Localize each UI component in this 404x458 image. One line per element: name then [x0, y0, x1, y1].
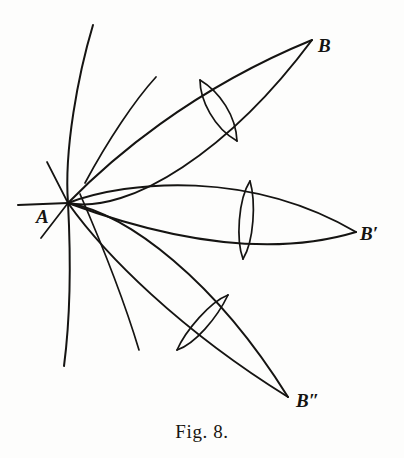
lower-lens-outer-right-edge	[68, 203, 288, 397]
label-endpoint-b-double-prime: B″	[295, 390, 319, 411]
upper-lens-inner-right-edge	[200, 80, 237, 141]
figure-drawing: A B B′ B″	[0, 0, 404, 458]
horizontal-axis-line	[18, 203, 68, 205]
middle-lens-outer-lower-edge	[68, 203, 356, 244]
upper-lens-outer-lower-edge	[68, 40, 312, 204]
label-vertex-a: A	[35, 206, 49, 227]
middle-lens-outer-upper-edge	[68, 185, 356, 232]
label-endpoint-b: B	[317, 35, 331, 56]
figure-caption: Fig. 8.	[0, 421, 404, 443]
lower-lens-outer-left-edge	[68, 203, 288, 397]
upper-lens-outer-upper-edge	[68, 40, 312, 203]
upper-crossing-arc	[85, 77, 156, 183]
label-endpoint-b-prime: B′	[359, 223, 378, 244]
figure-container: A B B′ B″ Fig. 8.	[0, 0, 404, 458]
upper-lens-inner-left-edge	[200, 80, 237, 141]
